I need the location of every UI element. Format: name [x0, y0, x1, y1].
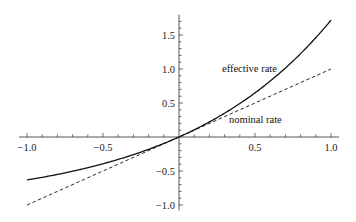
effective-rate-label: effective rate — [222, 63, 277, 74]
x-tick-label: 0.5 — [248, 142, 261, 153]
y-tick-label: −0.5 — [156, 166, 175, 177]
labels-group: −1.0−0.50.51.01.51.00.5−0.5−1.0effective… — [17, 30, 337, 211]
nominal-rate-label: nominal rate — [229, 114, 282, 125]
y-tick-label: 1.0 — [162, 64, 175, 75]
y-tick-label: −1.0 — [156, 200, 175, 211]
y-tick-label: 1.5 — [162, 30, 175, 41]
chart: −1.0−0.50.51.01.51.00.5−0.5−1.0effective… — [0, 0, 356, 222]
x-tick-label: −1.0 — [17, 142, 36, 153]
axes — [19, 15, 339, 211]
x-tick-label: −0.5 — [93, 142, 112, 153]
y-tick-label: 0.5 — [162, 98, 175, 109]
x-tick-label: 1.0 — [324, 142, 337, 153]
